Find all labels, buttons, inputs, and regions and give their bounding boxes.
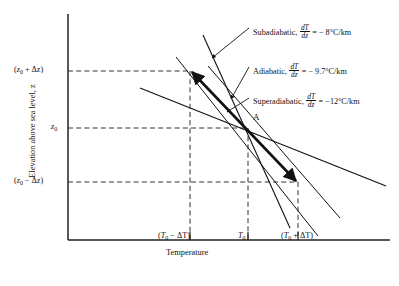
figure-container: Subadiabatic, dTdz = − 8°C/km Adiabatic,…	[0, 0, 399, 286]
y-mid-subscript: 0	[54, 126, 57, 132]
x-right-delta: + ΔT)	[291, 231, 313, 240]
annotation-adiabatic-value: = − 9.7°C/km	[300, 67, 347, 76]
subadiabatic-derivative: dTdz	[300, 24, 310, 40]
lapse-rate-plot	[0, 0, 399, 286]
line-aux-mid	[208, 66, 340, 218]
y-axis-title: Elevation above sea level, z	[28, 84, 37, 177]
superadiabatic-derivative: dTdz	[306, 93, 316, 109]
point-a-label: A	[253, 113, 260, 122]
x-tick-label-t0: T0	[238, 232, 246, 241]
annotation-superadiabatic-value: = −12°C/km	[317, 97, 360, 106]
annotation-superadiabatic-name: Superadiabatic,	[253, 97, 306, 106]
line-aux-steep	[176, 57, 318, 236]
leader-subadiabatic	[212, 28, 249, 58]
y-tick-label-z0: z0	[51, 123, 57, 132]
annotation-subadiabatic: Subadiabatic, dTdz = − 8°C/km	[253, 24, 351, 40]
x-axis-title: Temperature	[166, 249, 208, 258]
annotation-subadiabatic-name: Subadiabatic,	[253, 28, 299, 37]
annotation-subadiabatic-value: = − 8°C/km	[310, 28, 351, 37]
line-adiabatic	[192, 72, 296, 181]
x-left-delta: − ΔT)	[168, 231, 190, 240]
axis-lines	[68, 14, 390, 240]
x-tick-label-t0-minus-dt: (T0 − ΔT)	[158, 232, 190, 241]
adiabatic-derivative: dTdz	[289, 63, 299, 79]
leader-adiabatic	[231, 67, 249, 99]
adiabatic-denominator: dz	[289, 71, 299, 78]
annotation-adiabatic-name: Adiabatic,	[253, 67, 289, 76]
annotation-superadiabatic: Superadiabatic, dTdz = −12°C/km	[253, 93, 360, 109]
annotation-adiabatic: Adiabatic, dTdz = − 9.7°C/km	[253, 63, 347, 79]
superadiabatic-denominator: dz	[306, 101, 316, 108]
horizontal-guides	[68, 71, 298, 182]
y-axis-title-wrapper: Elevation above sea level, z	[21, 41, 39, 221]
subadiabatic-denominator: dz	[300, 32, 310, 39]
x-mid-subscript: 0	[243, 235, 246, 241]
x-tick-label-t0-plus-dt: (T0 + ΔT)	[281, 232, 313, 241]
